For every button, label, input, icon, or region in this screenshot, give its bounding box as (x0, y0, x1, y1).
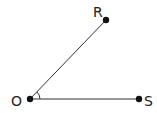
point-s (136, 96, 142, 102)
ray-or (30, 20, 106, 99)
angle-diagram: O R S (0, 0, 157, 113)
label-r: R (93, 4, 103, 20)
label-s: S (144, 93, 153, 109)
point-o (27, 96, 33, 102)
angle-arc (37, 92, 40, 99)
point-r (103, 17, 109, 23)
label-o: O (11, 93, 22, 109)
